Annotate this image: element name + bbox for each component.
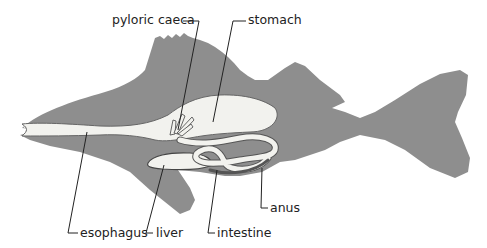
fish-illustration (0, 0, 487, 248)
fish-digestive-diagram: pyloric caeca stomach esophagus liver in… (0, 0, 487, 248)
label-intestine: intestine (217, 227, 272, 240)
label-anus: anus (270, 202, 300, 215)
label-liver: liver (156, 227, 183, 240)
label-pyloric-caeca: pyloric caeca (112, 14, 195, 27)
label-stomach: stomach (248, 14, 302, 27)
label-esophagus: esophagus (80, 227, 148, 240)
